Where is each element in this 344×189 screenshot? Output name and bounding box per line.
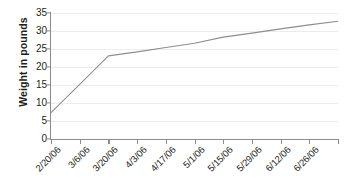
x-axis-tick-mark	[338, 139, 339, 144]
x-axis-tick-label: 3/20/06	[90, 144, 120, 174]
x-axis-tick-mark	[195, 139, 196, 144]
x-axis-tick-label: 4/3/06	[123, 144, 149, 170]
x-axis-tick-mark	[166, 139, 167, 144]
x-axis-tick-mark	[108, 139, 109, 144]
x-axis-tick-mark	[80, 139, 81, 144]
x-axis-tick-label: 5/1/06	[180, 144, 206, 170]
x-axis-tick-mark	[137, 139, 138, 144]
y-axis-tick-label: 15	[23, 80, 47, 90]
x-axis-tick-mark	[51, 139, 52, 144]
y-axis-tick-label: 5	[23, 116, 47, 126]
series-polyline	[51, 21, 338, 112]
x-axis-tick-label: 4/17/06	[148, 144, 178, 174]
x-axis-tick-label: 6/12/06	[263, 144, 293, 174]
y-axis-tick-label: 0	[23, 134, 47, 144]
x-axis-tick-mark	[309, 139, 310, 144]
x-axis-tick-label: 5/29/06	[234, 144, 264, 174]
x-axis-tick-label: 3/6/06	[65, 144, 91, 170]
y-axis-tick-label: 30	[23, 26, 47, 36]
y-axis-tick-label: 20	[23, 62, 47, 72]
line-chart: Weight in pounds 05101520253035 2/20/063…	[0, 0, 344, 189]
y-axis-tick-label: 35	[23, 8, 47, 18]
y-axis-tick-label: 10	[23, 98, 47, 108]
y-axis-tick-label: 25	[23, 44, 47, 54]
plot-area	[51, 13, 338, 139]
x-axis-tick-mark	[281, 139, 282, 144]
x-axis-tick-mark	[223, 139, 224, 144]
weight-series-line	[51, 13, 338, 139]
x-axis-tick-label: 6/26/06	[291, 144, 321, 174]
x-axis-tick-label: 5/15/06	[205, 144, 235, 174]
x-axis-tick-mark	[252, 139, 253, 144]
